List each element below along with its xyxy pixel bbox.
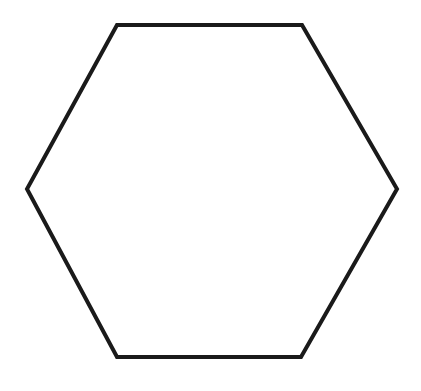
diagram-canvas [0,0,421,391]
background [0,0,421,391]
